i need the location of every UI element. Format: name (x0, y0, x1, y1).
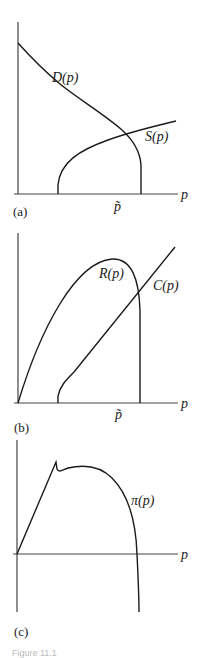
panel-label-a: (a) (13, 204, 27, 219)
profit-curve (17, 462, 139, 612)
panel-label-c: (c) (14, 624, 28, 639)
cost-label: C(p) (153, 278, 179, 294)
panel-label-b: (b) (14, 420, 29, 435)
revenue-label: R(p) (98, 266, 124, 282)
panel-b: R(p) C(p) p p̃ (b) (14, 233, 188, 435)
x-axis-label-a: p (180, 187, 188, 202)
panel-a: D(p) S(p) p p̃ (a) (13, 22, 188, 219)
p-tilde-a: p̃ (113, 199, 121, 214)
x-axis-label-b: p (180, 396, 188, 411)
profit-label: π(p) (131, 493, 155, 509)
demand-curve (18, 43, 141, 194)
p-tilde-b: p̃ (114, 407, 122, 422)
supply-label: S(p) (145, 129, 169, 145)
demand-label: D(p) (51, 70, 79, 86)
panel-c: π(p) p (c) (13, 440, 188, 639)
x-axis-label-c: p (180, 547, 188, 562)
figure-caption: Figure 11.1 (12, 648, 57, 658)
